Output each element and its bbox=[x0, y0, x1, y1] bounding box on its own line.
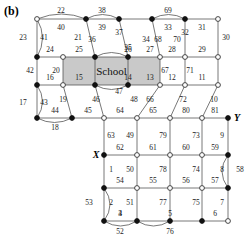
graph-node-filled[interactable] bbox=[102, 186, 107, 191]
edge-label: 38 bbox=[98, 7, 106, 15]
edge-label: 61 bbox=[149, 144, 157, 152]
edge-label: 21 bbox=[74, 34, 82, 42]
graph-node-filled[interactable] bbox=[135, 219, 140, 224]
edge-label: 42 bbox=[26, 67, 34, 75]
edge-label: 6 bbox=[213, 210, 217, 218]
edge-label: 52 bbox=[116, 228, 124, 236]
edge-label: 22 bbox=[57, 7, 65, 15]
edge-label: 32 bbox=[181, 29, 189, 37]
graph-node-open[interactable] bbox=[168, 153, 173, 158]
edge-label: 19 bbox=[59, 96, 67, 104]
edge-label: 13 bbox=[146, 74, 154, 82]
edge-label: 73 bbox=[192, 132, 200, 140]
graph-node-filled[interactable] bbox=[102, 153, 107, 158]
edge-label: 31 bbox=[198, 24, 206, 32]
graph-node-open[interactable] bbox=[216, 17, 221, 22]
graph-node-filled[interactable] bbox=[183, 17, 188, 22]
edge-label: 48 bbox=[130, 96, 138, 104]
graph-node-filled[interactable] bbox=[226, 116, 231, 121]
graph-node-open[interactable] bbox=[168, 116, 173, 121]
graph-node-filled[interactable] bbox=[200, 219, 205, 224]
edge-label: 62 bbox=[116, 144, 124, 152]
graph-node-filled[interactable] bbox=[168, 219, 173, 224]
edge-label: 39 bbox=[98, 24, 106, 32]
edge-label: 26 bbox=[124, 46, 132, 54]
edge-label: 74 bbox=[192, 166, 200, 174]
edge-label: 9 bbox=[220, 132, 224, 140]
graph-node-open[interactable] bbox=[102, 116, 107, 121]
graph-node-open[interactable] bbox=[61, 83, 66, 88]
edge-label: 77 bbox=[159, 199, 167, 207]
graph-node-open[interactable] bbox=[183, 55, 188, 60]
edge-label: 30 bbox=[222, 34, 230, 42]
edge-label: 68 bbox=[154, 36, 162, 44]
edge-label: 50 bbox=[126, 166, 134, 174]
edge-label: 70 bbox=[173, 36, 181, 44]
graph-node-open[interactable] bbox=[226, 219, 231, 224]
edge-label: 78 bbox=[159, 166, 167, 174]
edge-label: 54 bbox=[116, 177, 124, 185]
edge-label: 23 bbox=[19, 34, 27, 42]
edge-arc-35 bbox=[95, 53, 128, 58]
graph-node-filled[interactable] bbox=[102, 219, 107, 224]
panel-label: (b) bbox=[4, 4, 19, 19]
graph-node-open[interactable] bbox=[216, 55, 221, 60]
graph-node-open[interactable] bbox=[135, 186, 140, 191]
edge-label: 47 bbox=[115, 88, 123, 96]
edge-label: 16 bbox=[46, 74, 54, 82]
graph-node-filled[interactable] bbox=[150, 17, 155, 22]
edge-label: 66 bbox=[146, 96, 154, 104]
edge-label: 36 bbox=[88, 36, 96, 44]
graph-node-filled[interactable] bbox=[226, 186, 231, 191]
graph-node-open[interactable] bbox=[200, 186, 205, 191]
graph-node-open[interactable] bbox=[200, 153, 205, 158]
point-label-x: X bbox=[93, 150, 100, 160]
edge-label: 58 bbox=[236, 166, 244, 174]
graph-node-open[interactable] bbox=[216, 83, 221, 88]
graph-node-open[interactable] bbox=[200, 116, 205, 121]
graph-node-filled[interactable] bbox=[35, 116, 40, 121]
edge-label: 59 bbox=[211, 144, 219, 152]
edge-label: 49 bbox=[126, 132, 134, 140]
graph-node-open[interactable] bbox=[135, 153, 140, 158]
graph-node-open[interactable] bbox=[35, 17, 40, 22]
graph-node-open[interactable] bbox=[168, 186, 173, 191]
edge-label: 44 bbox=[51, 107, 59, 115]
graph-node-filled[interactable] bbox=[93, 55, 98, 60]
figure-panel: (b) 223869234140213936373433683270313035… bbox=[0, 0, 246, 241]
edge-label: 81 bbox=[211, 107, 219, 115]
graph-node-filled[interactable] bbox=[35, 55, 40, 60]
edge-label: 53 bbox=[85, 199, 93, 207]
graph-node-filled[interactable] bbox=[117, 17, 122, 22]
graph-node-filled[interactable] bbox=[226, 153, 231, 158]
graph-node-filled[interactable] bbox=[35, 83, 40, 88]
graph-node-filled[interactable] bbox=[93, 83, 98, 88]
graph-node-filled[interactable] bbox=[126, 83, 131, 88]
edge-label: 57 bbox=[211, 177, 219, 185]
graph-node-filled[interactable] bbox=[70, 116, 75, 121]
graph-node-filled[interactable] bbox=[84, 17, 89, 22]
edge-label: 8 bbox=[220, 166, 224, 174]
edge-label: 17 bbox=[19, 99, 27, 107]
graph-node-open[interactable] bbox=[158, 83, 163, 88]
edge-label: 4 bbox=[118, 210, 122, 218]
edge-label: 37 bbox=[115, 29, 123, 37]
graph-node-open[interactable] bbox=[158, 55, 163, 60]
edge-label: 65 bbox=[149, 107, 157, 115]
edge-label: 27 bbox=[146, 46, 154, 54]
edge-label: 10 bbox=[210, 96, 218, 104]
graph-node-open[interactable] bbox=[183, 83, 188, 88]
edge-label: 33 bbox=[164, 24, 172, 32]
graph-node-open[interactable] bbox=[61, 55, 66, 60]
graph-node-open[interactable] bbox=[135, 116, 140, 121]
edge-label: 40 bbox=[57, 24, 65, 32]
edge-arc-76 bbox=[137, 221, 170, 226]
edge-label: 45 bbox=[84, 107, 92, 115]
edge-label: 24 bbox=[46, 46, 54, 54]
edge-label: 75 bbox=[192, 199, 200, 207]
graph-node-filled[interactable] bbox=[126, 55, 131, 60]
edge-arc-52 bbox=[104, 221, 137, 226]
edge-label: 69 bbox=[164, 7, 172, 15]
edge-label: 7 bbox=[220, 199, 224, 207]
region-label-school: School bbox=[96, 66, 127, 77]
